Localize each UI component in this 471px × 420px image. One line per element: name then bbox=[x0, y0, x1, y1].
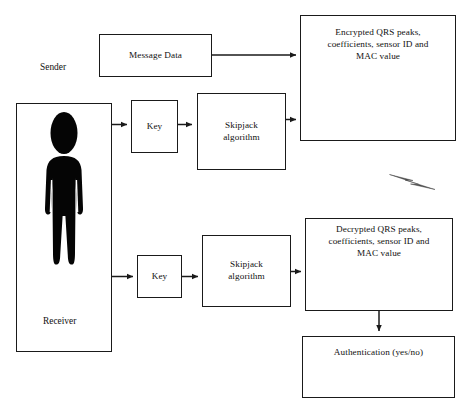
skipjack-bottom-line-1: Skipjack bbox=[230, 259, 263, 269]
endpoint-person-box[interactable] bbox=[16, 103, 112, 352]
authentication-label: Authentication (yes/no) bbox=[303, 347, 454, 359]
receiver-label: Receiver bbox=[43, 316, 76, 326]
encrypted-payload-box[interactable]: Encrypted QRS peaks, coefficients, senso… bbox=[300, 15, 456, 141]
decrypted-line-3: MAC value bbox=[357, 248, 401, 258]
key-top-label: Key bbox=[132, 121, 177, 133]
skipjack-box-bottom[interactable]: Skipjack algorithm bbox=[202, 235, 291, 307]
skipjack-top-line-2: algorithm bbox=[223, 132, 260, 142]
decrypted-line-2: coefficients, sensor ID and bbox=[328, 236, 429, 246]
encrypted-payload-label: Encrypted QRS peaks, coefficients, senso… bbox=[301, 27, 455, 63]
key-bottom-label: Key bbox=[138, 271, 181, 283]
lightning-bolt-icon bbox=[390, 175, 436, 190]
decrypted-line-1: Decrypted QRS peaks, bbox=[336, 224, 422, 234]
skipjack-bottom-line-2: algorithm bbox=[228, 271, 265, 281]
skipjack-top-line-1: Skipjack bbox=[225, 120, 258, 130]
message-data-label: Message Data bbox=[100, 50, 211, 62]
encrypted-line-3: MAC value bbox=[356, 51, 400, 61]
skipjack-top-label: Skipjack algorithm bbox=[198, 120, 285, 144]
encrypted-line-2: coefficients, sensor ID and bbox=[327, 39, 428, 49]
sender-label: Sender bbox=[40, 62, 66, 72]
decrypted-payload-label: Decrypted QRS peaks, coefficients, senso… bbox=[306, 224, 452, 260]
decrypted-payload-box[interactable]: Decrypted QRS peaks, coefficients, senso… bbox=[305, 218, 453, 311]
encrypted-line-1: Encrypted QRS peaks, bbox=[335, 27, 420, 37]
authentication-box[interactable]: Authentication (yes/no) bbox=[302, 336, 455, 398]
key-box-bottom[interactable]: Key bbox=[137, 255, 182, 298]
diagram-canvas: Sender Message Data Encrypted QRS peaks,… bbox=[0, 0, 471, 420]
message-data-box[interactable]: Message Data bbox=[99, 34, 212, 77]
key-box-top[interactable]: Key bbox=[131, 100, 178, 153]
skipjack-box-top[interactable]: Skipjack algorithm bbox=[197, 93, 286, 170]
skipjack-bottom-label: Skipjack algorithm bbox=[203, 259, 290, 283]
